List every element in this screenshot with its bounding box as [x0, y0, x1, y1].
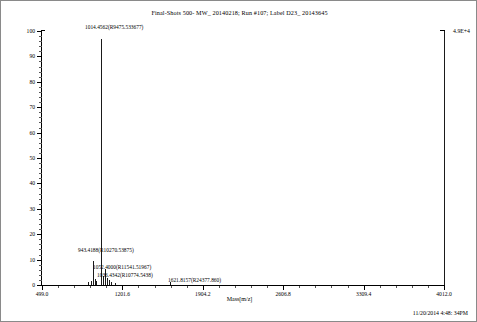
peak-annotation-1014: 1014.4562(R9475.533677) [85, 24, 143, 30]
x-tick-minor [171, 286, 172, 288]
y-tick-label-80: 80 [9, 79, 35, 85]
x-tick-minor [138, 286, 139, 288]
x-tick-minor [299, 286, 300, 288]
x-tick-3309.4 [364, 286, 365, 290]
spectrum-window: Final-Shots 500- MW_ 20140218; Run #107;… [0, 0, 477, 322]
spectrum-peak [109, 280, 110, 285]
x-tick-minor [219, 286, 220, 288]
spectrum-peak [111, 282, 112, 285]
x-tick-1904.2 [203, 286, 204, 290]
x-tick-499.0 [42, 286, 43, 290]
x-tick-minor [331, 286, 332, 288]
peak-annotation-943: 943.4188(R10270.53875) [78, 247, 134, 253]
y-tick-label-40: 40 [9, 180, 35, 186]
x-tick-minor [74, 286, 75, 288]
x-tick-minor [412, 286, 413, 288]
x-tick-minor [90, 286, 91, 288]
x-tick-2606.8 [283, 286, 284, 290]
x-tick-minor [106, 286, 107, 288]
peak-annotation-1621: 1621.8157(R24377.860) [168, 277, 221, 283]
x-tick-minor [380, 286, 381, 288]
y-tick-label-0: 0 [9, 282, 35, 288]
y-tick-label-30: 30 [9, 206, 35, 212]
x-tick-4012.0 [444, 286, 445, 290]
spectrum-peak [107, 278, 108, 285]
timestamp: 11/20/2014 4:48: 34PM [413, 310, 468, 316]
peak-annotation-1052: 1052.4000(R11541.51967) [93, 264, 151, 270]
y-tick-label-20: 20 [9, 231, 35, 237]
x-axis-line [41, 285, 445, 286]
x-axis-title: Mass[m/z] [1, 296, 477, 302]
x-tick-minor [58, 286, 59, 288]
x-tick-minor [396, 286, 397, 288]
page-title: Final-Shots 500- MW_ 20140218; Run #107;… [1, 9, 477, 16]
y-tick-label-100: 100 [9, 28, 35, 34]
spectrum-peak [115, 283, 116, 285]
x-tick-minor [235, 286, 236, 288]
spectrum-peak [91, 281, 92, 285]
x-tick-minor [187, 286, 188, 288]
spectrum-peak [96, 281, 97, 285]
spectrum-peak [444, 31, 445, 285]
peak-annotation-1036: 1036.4342(R10774.5438) [97, 272, 153, 278]
y-tick-label-10: 10 [9, 257, 35, 263]
x-tick-1201.6 [122, 286, 123, 290]
x-tick-minor [155, 286, 156, 288]
x-tick-minor [315, 286, 316, 288]
x-tick-minor [428, 286, 429, 288]
spectrum-peak [88, 282, 89, 285]
x-tick-minor [251, 286, 252, 288]
x-tick-minor [348, 286, 349, 288]
y-tick-label-70: 70 [9, 104, 35, 110]
x-tick-minor [267, 286, 268, 288]
base-peak-intensity-label: 4.9E+4 [453, 28, 470, 34]
y-tick-label-90: 90 [9, 53, 35, 59]
y-tick-label-50: 50 [9, 155, 35, 161]
y-tick-label-60: 60 [9, 130, 35, 136]
